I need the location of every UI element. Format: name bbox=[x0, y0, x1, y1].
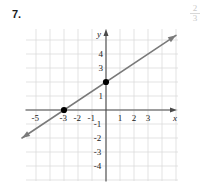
margin-fraction-note: 2 3 bbox=[189, 4, 201, 23]
x-tick-label-2: 2 bbox=[132, 114, 137, 123]
margin-fraction-denominator: 3 bbox=[189, 14, 201, 23]
y-tick-label-neg1: -1 bbox=[94, 120, 102, 129]
y-tick-label-neg4: -4 bbox=[94, 162, 102, 171]
y-tick-label-neg3: -3 bbox=[94, 148, 102, 157]
figure-container: 7. 2 3 -5-3-2-1123431-1-2-3-4yx bbox=[0, 0, 204, 186]
problem-number-label: 7. bbox=[12, 9, 21, 20]
y-tick-label-neg2: -2 bbox=[94, 134, 102, 143]
y-tick-label-3: 3 bbox=[98, 64, 103, 73]
x-tick-label-3: 3 bbox=[146, 114, 151, 123]
margin-fraction-numerator: 2 bbox=[189, 4, 201, 13]
coordinate-plane: -5-3-2-1123431-1-2-3-4yx bbox=[26, 29, 178, 181]
y-tick-label-4: 4 bbox=[98, 50, 103, 59]
y-axis-name: y bbox=[97, 30, 101, 39]
x-tick-label-neg5: -5 bbox=[31, 114, 39, 123]
x-axis-name: x bbox=[173, 114, 177, 123]
y-tick-label-1: 1 bbox=[98, 92, 103, 101]
x-tick-label-1: 1 bbox=[118, 114, 123, 123]
x-tick-label-neg2: -2 bbox=[73, 114, 81, 123]
x-tick-label-neg3: -3 bbox=[59, 114, 67, 123]
